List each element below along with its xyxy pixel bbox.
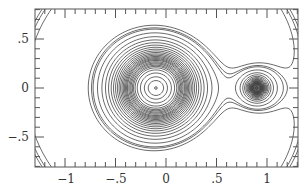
x-axis-tick-labels: −1 −.5 0 .5 1 xyxy=(57,172,271,186)
contour-line xyxy=(127,61,261,116)
contour-line xyxy=(111,45,268,131)
y-tick-label: −.5 xyxy=(7,130,29,144)
primary-body-marker xyxy=(155,87,158,90)
contour-line xyxy=(130,63,261,113)
secondary-body-marker xyxy=(256,87,259,90)
x-tick-label: −.5 xyxy=(105,172,127,186)
y-tick-label: .5 xyxy=(18,32,29,46)
contour-line xyxy=(134,66,261,109)
contour-lines xyxy=(34,8,299,168)
y-tick-label: 0 xyxy=(21,81,29,95)
contour-line xyxy=(34,8,299,168)
contour-chart: −1 −.5 0 .5 1 .5 0 −.5 xyxy=(0,0,307,189)
y-axis-tick-labels: .5 0 −.5 xyxy=(7,32,29,144)
contour-line xyxy=(144,77,258,99)
contour-line xyxy=(135,68,260,108)
x-tick-label: .5 xyxy=(211,172,222,186)
x-tick-label: 1 xyxy=(263,172,271,186)
x-tick-label: 0 xyxy=(162,172,170,186)
contour-line xyxy=(34,8,299,168)
contour-line xyxy=(34,8,294,168)
x-tick-label: −1 xyxy=(57,172,75,186)
